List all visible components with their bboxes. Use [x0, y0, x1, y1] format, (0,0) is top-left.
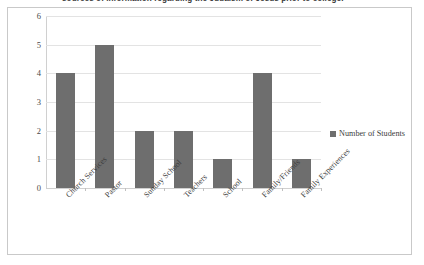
chart-frame: 0123456 Church ServicesPastorSunday Scho… [7, 7, 412, 255]
gridline [46, 16, 321, 17]
bar [135, 131, 154, 188]
y-axis-tick-label: 5 [37, 40, 41, 50]
y-axis-tick-label: 2 [37, 126, 41, 136]
x-axis-tickmark [203, 188, 204, 191]
y-axis-tick-label: 0 [37, 183, 41, 193]
x-axis-tickmark [282, 188, 283, 191]
caption-strip: sources of information regarding the Jud… [0, 0, 424, 6]
y-axis-tick-label: 1 [37, 154, 41, 164]
legend-entry-label: Number of Students [339, 129, 405, 138]
y-axis-tick-label: 4 [37, 68, 41, 78]
x-axis-tickmark [164, 188, 165, 191]
x-axis-tickmark [321, 188, 322, 191]
bar [253, 73, 272, 188]
x-axis-tickmark [242, 188, 243, 191]
gridline [46, 102, 321, 103]
chart-legend: Number of Students [330, 129, 405, 138]
x-axis-tickmark [125, 188, 126, 191]
gridline [46, 188, 321, 189]
y-axis-tick-label: 3 [37, 97, 41, 107]
gridline [46, 45, 321, 46]
caption-text: sources of information regarding the Jud… [62, 0, 362, 3]
plot-area: 0123456 Church ServicesPastorSunday Scho… [46, 16, 321, 188]
legend-color-swatch [330, 131, 336, 137]
bar [56, 73, 75, 188]
plot-inner: 0123456 Church ServicesPastorSunday Scho… [46, 16, 321, 188]
x-axis-tickmark [85, 188, 86, 191]
y-axis-tick-label: 6 [37, 11, 41, 21]
gridline [46, 73, 321, 74]
